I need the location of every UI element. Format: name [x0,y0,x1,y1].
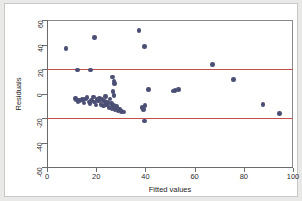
x-tick-label: 20 [92,173,100,181]
reference-line-lower-threshold [47,118,293,119]
x-tick-label: 60 [190,173,198,181]
x-axis-spine [47,167,293,168]
y-tick-label: -20 [37,118,44,128]
scatter-point [142,119,147,124]
x-tick-label: 100 [287,173,300,181]
x-tick-label: 80 [240,173,248,181]
scatter-point [112,81,117,86]
y-axis-title: Residuals [14,78,23,111]
x-tick-label: 40 [141,173,149,181]
y-tick-label: 40 [37,45,44,52]
scatter-point [75,68,80,73]
y-tick-label: 20 [37,69,44,76]
y-tick-label: -40 [37,143,44,153]
y-tick-label: 60 [37,20,44,27]
screenshot-root: -60-40-200204060 020406080100 Residuals … [0,0,302,201]
x-tick-label: 0 [45,173,49,181]
y-tick-label: -60 [37,167,44,177]
scatter-point [210,62,215,67]
scatter-point [176,87,181,92]
x-axis-title: Fitted values [149,185,192,194]
scatter-point [142,44,147,49]
scatter-point [146,87,151,92]
plot-area [47,20,293,168]
reference-line-upper-threshold [47,69,293,70]
residual-plot-figure: -60-40-200204060 020406080100 Residuals … [4,3,298,197]
scatter-point [277,111,282,116]
scatter-point [92,35,97,40]
scatter-point [88,68,93,73]
scatter-point [261,102,266,107]
y-tick-label: 0 [37,94,44,98]
scatter-point [231,77,236,82]
y-axis-spine [47,20,48,168]
